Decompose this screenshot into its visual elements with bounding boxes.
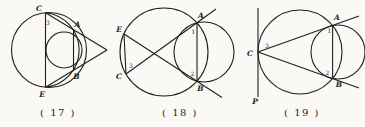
label-C: C [247,49,253,58]
line-C-vertex [46,13,108,50]
caption-19: ( 19 ) [284,107,320,118]
label-2: 2 [326,69,330,76]
label-B: B [72,72,79,81]
label-1: 1 [192,28,196,35]
label-B: B [196,84,203,93]
label-1: 1 [328,27,332,34]
figure-17: C3ABE( 17 ) [12,4,108,118]
label-E: E [115,25,122,34]
label-3: 3 [265,42,269,49]
caption-17: ( 17 ) [40,107,76,118]
label-P: P [251,97,258,106]
label-E: E [38,90,45,99]
label-A: A [74,20,81,29]
label-B: B [335,80,342,89]
left-circle [258,10,342,94]
label-C: C [116,72,122,81]
label-3: 3 [129,62,133,69]
diagram-svg: C3ABE( 17 )EC3A12B( 18 )C3A12BP( 19 ) [0,0,365,127]
secant-C-A [258,16,359,52]
small-circle [46,32,82,68]
label-A: A [197,11,204,20]
label-2: 2 [191,70,195,77]
label-C: C [36,4,42,13]
worksheet-scan: C3ABE( 17 )EC3A12B( 18 )C3A12BP( 19 ) [0,0,365,127]
figure-18: EC3A12B( 18 ) [115,8,234,118]
label-3: 3 [46,19,50,26]
label-A: A [333,13,340,22]
secant-C-B [258,52,359,88]
left-circle [120,8,208,96]
figure-19: C3A12BP( 19 ) [247,8,365,118]
chord-EC [124,34,126,74]
caption-18: ( 18 ) [162,107,198,118]
line-E-vertex [46,50,108,87]
right-circle [174,22,234,82]
